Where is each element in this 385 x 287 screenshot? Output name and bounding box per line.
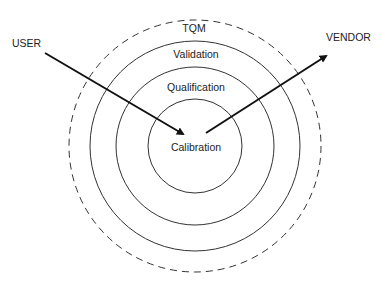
calibration-label: Calibration [171, 141, 221, 153]
qualification-label: Qualification [167, 81, 225, 93]
concentric-diagram: TQM Validation Qualification Calibration… [0, 0, 385, 287]
validation-label: Validation [173, 48, 218, 60]
user-arrow [45, 53, 183, 134]
vendor-arrow [206, 56, 326, 133]
tqm-label: TQM [182, 22, 205, 34]
vendor-label: VENDOR [326, 31, 371, 43]
user-label: USER [12, 37, 42, 49]
